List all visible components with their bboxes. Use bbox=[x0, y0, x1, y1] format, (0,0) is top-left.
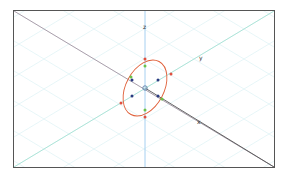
blue-handle-point[interactable] bbox=[131, 95, 134, 98]
red-handle-point[interactable] bbox=[170, 73, 173, 76]
green-handle-point[interactable] bbox=[161, 98, 164, 101]
blue-handle-point[interactable] bbox=[131, 79, 134, 82]
grid-line bbox=[14, 161, 274, 167]
red-handle-point[interactable] bbox=[144, 116, 147, 119]
x-axis-label: x bbox=[197, 118, 201, 125]
red-handle-point[interactable] bbox=[144, 58, 147, 61]
green-handle-point[interactable] bbox=[144, 109, 147, 112]
3d-viewport[interactable]: z y x bbox=[13, 10, 275, 168]
z-axis-label: z bbox=[143, 23, 146, 30]
red-handle-point[interactable] bbox=[120, 102, 123, 105]
grid-line bbox=[14, 11, 274, 17]
blue-handle-point[interactable] bbox=[157, 79, 160, 82]
blue-handle-point[interactable] bbox=[157, 95, 160, 98]
green-handle-point[interactable] bbox=[130, 76, 133, 79]
y-axis-label: y bbox=[199, 54, 203, 62]
grid-line bbox=[14, 11, 274, 17]
grid-line bbox=[14, 161, 274, 167]
scene: z y x bbox=[14, 11, 274, 167]
green-handle-point[interactable] bbox=[144, 65, 147, 68]
x-axis-positive bbox=[145, 88, 274, 167]
